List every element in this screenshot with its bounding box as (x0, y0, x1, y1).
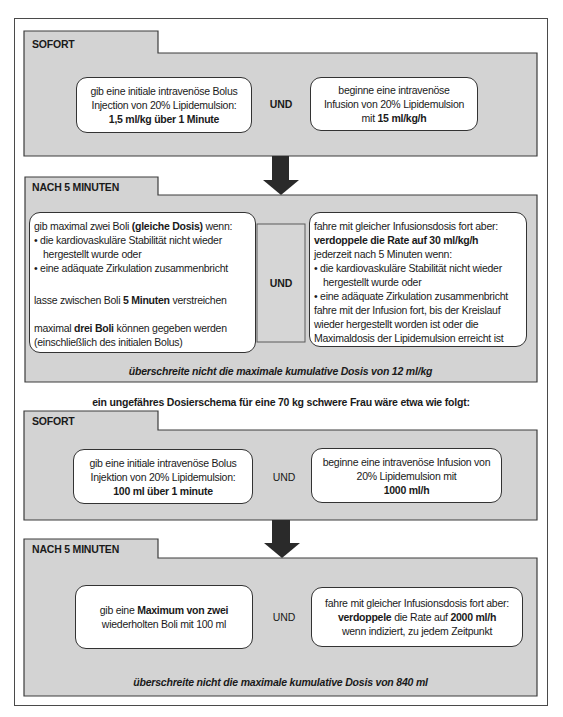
text-line: beginne eine intravenöse (338, 83, 449, 97)
emphasized-text: Maximum von zwei (137, 604, 228, 616)
text-segment: gib eine initiale intravenöse Bolus (90, 85, 237, 97)
text-segment: fahre mit gleicher Infusionsdosis fort a… (314, 220, 498, 232)
text-line: (einschließlich des initialen Bolus) (34, 335, 255, 349)
text-segment: beginne eine intravenöse (338, 84, 449, 96)
text-segment: fahre mit der Infusion fort, bis der Kre… (314, 304, 500, 316)
max-dose-note: überschreite nicht die maximale kumulati… (24, 675, 537, 689)
text-line: mit 15 ml/kg/h (362, 111, 427, 125)
emphasized-text: verdoppele (338, 611, 392, 623)
bolus-instruction-box: gib eine initiale intravenöse BolusInjec… (76, 77, 252, 133)
text-segment: beginne eine intravenöse Infusion von (323, 456, 491, 468)
text-line: 1,5 ml/kg über 1 Minute (109, 112, 219, 126)
emphasized-text: drei Boli (74, 322, 114, 334)
text-segment: die Rate auf (391, 611, 450, 623)
text-line: lasse zwischen Boli 5 Minuten verstreich… (34, 293, 255, 307)
text-segment: Infusion von 20% Lipidemulsion (324, 98, 464, 110)
infusion-instruction-box: beginne eine intravenöseInfusion von 20%… (310, 77, 478, 131)
tab-label-nach-5-minuten: NACH 5 MINUTEN (32, 542, 119, 556)
text-segment: mit (362, 112, 378, 124)
text-segment: wieder hergestellt worden ist oder die (314, 318, 478, 330)
emphasized-text: 5 Minuten (123, 294, 170, 306)
repeat-bolus-box: gib maximal zwei Boli (gleiche Dosis) we… (29, 212, 256, 353)
tab-label-sofort: SOFORT (32, 414, 75, 428)
text-segment: gib maximal zwei Boli (34, 220, 132, 232)
emphasized-text: 2000 ml/h (450, 611, 496, 623)
text-line: • die kardiovaskuläre Stabilität nicht w… (314, 261, 526, 275)
text-segment: (einschließlich des initialen Bolus) (34, 336, 183, 348)
text-line: 100 ml über 1 minute (113, 484, 212, 498)
text-line: Maximaldosis der Lipidemulsion erreicht … (314, 331, 526, 345)
arrow-shaft (272, 520, 290, 544)
text-segment: lasse zwischen Boli (34, 294, 123, 306)
bolus-instruction-box: gib eine initiale intravenöse BolusInjek… (73, 449, 253, 504)
spacer-line (34, 307, 255, 321)
text-segment: verstreichen (170, 294, 227, 306)
text-line: • eine adäquate Zirkulation zusammenbric… (34, 261, 255, 275)
example-intro: ein ungefähres Dosierschema für eine 70 … (14, 395, 548, 409)
down-arrow-icon (264, 520, 300, 558)
text-segment: • eine adäquate Zirkulation zusammenbric… (34, 262, 228, 274)
text-line: Infusion von 20% Lipidemulsion (324, 97, 464, 111)
text-line: verdoppele die Rate auf 2000 ml/h (338, 610, 496, 624)
text-segment: jederzeit nach 5 Minuten wenn: (314, 248, 452, 260)
text-segment: Injektion von 20% Lipidemulsion: (91, 471, 236, 483)
arrow-head (264, 543, 300, 558)
text-segment: hergestellt wurde oder (323, 276, 421, 288)
text-segment: wenn indiziert, zu jedem Zeitpunkt (342, 625, 492, 637)
emphasized-text: verdoppele die Rate auf 30 ml/kg/h (314, 234, 478, 246)
connector-und: UND (273, 610, 296, 624)
text-segment: gib eine initiale intravenöse Bolus (89, 457, 236, 469)
text-segment: • die kardiovaskuläre Stabilität nicht w… (34, 234, 222, 246)
max-dose-note: überschreite nicht die maximale kumulati… (24, 364, 537, 378)
double-rate-box: fahre mit gleicher Infusionsdosis fort a… (311, 587, 523, 647)
text-line: maximal drei Boli können gegeben werden (34, 321, 255, 335)
emphasized-text: 1,5 ml/kg über 1 Minute (109, 113, 219, 125)
emphasized-text: 100 ml über 1 minute (113, 485, 212, 497)
connector-und: UND (270, 276, 293, 290)
text-line: gib eine initiale intravenöse Bolus (90, 84, 237, 98)
text-line: fahre mit gleicher Infusionsdosis fort a… (314, 219, 526, 233)
text-line: verdoppele die Rate auf 30 ml/kg/h (314, 233, 526, 247)
text-line: hergestellt wurde oder (34, 247, 255, 261)
arrow-head (263, 180, 299, 195)
text-line: fahre mit der Infusion fort, bis der Kre… (314, 303, 526, 317)
text-segment: wiederholten Boli mit 100 ml (102, 618, 226, 630)
text-line: • eine adäquate Zirkulation zusammenbric… (314, 289, 526, 303)
tab-label-nach-5-minuten: NACH 5 MINUTEN (32, 180, 119, 194)
text-segment: wenn: (203, 220, 232, 232)
text-line: gib maximal zwei Boli (gleiche Dosis) we… (34, 219, 255, 233)
text-segment: fahre mit gleicher Infusionsdosis fort a… (325, 597, 509, 609)
text-line: jederzeit nach 5 Minuten wenn: (314, 247, 526, 261)
emphasized-text: 1000 ml/h (384, 484, 430, 496)
text-line: gib eine initiale intravenöse Bolus (89, 456, 236, 470)
text-line: wenn indiziert, zu jedem Zeitpunkt (342, 624, 492, 638)
spacer-line (34, 275, 255, 293)
text-line: wieder hergestellt worden ist oder die (314, 317, 526, 331)
text-line: 20% Lipidemulsion mit (357, 469, 457, 483)
text-line: 1000 ml/h (384, 483, 430, 497)
text-line: Injection von 20% Lipidemulsion: (92, 98, 237, 112)
down-arrow-icon (263, 156, 299, 195)
arrow-shaft (272, 156, 289, 181)
text-segment: • die kardiovaskuläre Stabilität nicht w… (314, 262, 502, 274)
text-line: fahre mit gleicher Infusionsdosis fort a… (325, 596, 509, 610)
text-segment: Maximaldosis der Lipidemulsion erreicht … (314, 332, 503, 344)
text-segment: gib eine (100, 604, 137, 616)
text-line: • die kardiovaskuläre Stabilität nicht w… (34, 233, 255, 247)
text-segment: hergestellt wurde oder (43, 248, 141, 260)
text-segment: können gegeben werden (114, 322, 227, 334)
connector-und: UND (273, 470, 296, 484)
emphasized-text: 15 ml/kg/h (378, 112, 427, 124)
repeat-bolus-box: gib eine Maximum von zweiwiederholten Bo… (75, 585, 253, 649)
connector-und: UND (270, 97, 293, 111)
infusion-instruction-box: beginne eine intravenöse Infusion von20%… (311, 448, 502, 503)
tab-label-sofort: SOFORT (32, 37, 75, 51)
text-segment: Injection von 20% Lipidemulsion: (92, 99, 237, 111)
text-line: beginne eine intravenöse Infusion von (323, 455, 491, 469)
text-line: hergestellt wurde oder (314, 275, 526, 289)
text-segment: 20% Lipidemulsion mit (357, 470, 457, 482)
text-segment: • eine adäquate Zirkulation zusammenbric… (314, 290, 508, 302)
text-line: gib eine Maximum von zwei (100, 603, 229, 617)
text-segment: maximal (34, 322, 74, 334)
emphasized-text: (gleiche Dosis) (132, 220, 203, 232)
